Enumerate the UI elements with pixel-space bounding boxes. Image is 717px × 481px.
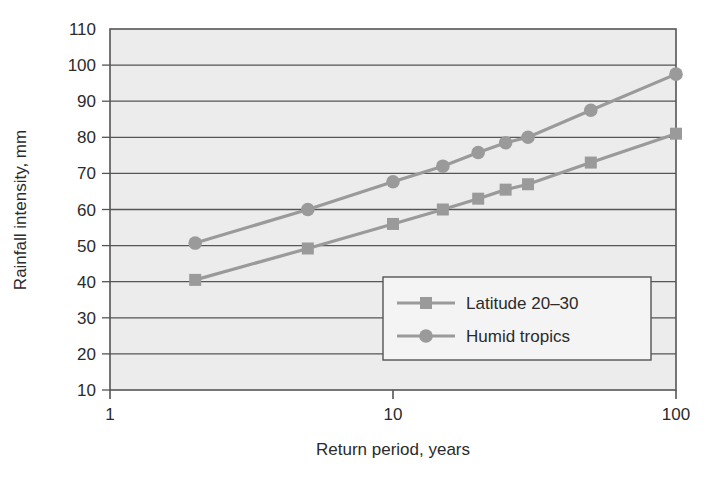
x-axis-tick-label: 10 xyxy=(384,405,403,424)
data-point-marker xyxy=(670,128,682,140)
data-point-marker xyxy=(437,204,449,216)
y-axis-tick-label: 60 xyxy=(77,201,96,220)
rainfall-intensity-line-chart: 102030405060708090100110 110100 Return p… xyxy=(0,0,717,481)
data-point-marker xyxy=(387,218,399,230)
x-axis-tick-label: 100 xyxy=(662,405,690,424)
x-axis-title: Return period, years xyxy=(316,440,470,459)
x-axis-tick-label: 1 xyxy=(105,405,114,424)
y-axis-tick-label: 30 xyxy=(77,309,96,328)
y-axis-ticks: 102030405060708090100110 xyxy=(68,20,110,400)
data-point-marker xyxy=(669,67,683,81)
chart-figure: 102030405060708090100110 110100 Return p… xyxy=(0,0,717,481)
y-axis-tick-label: 70 xyxy=(77,164,96,183)
data-point-marker xyxy=(500,184,512,196)
data-point-marker xyxy=(188,236,202,250)
y-axis-tick-label: 10 xyxy=(77,381,96,400)
data-point-marker xyxy=(386,175,400,189)
data-point-marker xyxy=(472,193,484,205)
y-axis-title: Rainfall intensity, mm xyxy=(11,130,30,290)
x-axis-ticks: 110100 xyxy=(105,390,690,424)
legend-label: Humid tropics xyxy=(466,327,570,346)
data-point-marker xyxy=(499,136,513,150)
y-axis-tick-label: 110 xyxy=(69,20,96,39)
y-axis-tick-label: 20 xyxy=(77,345,96,364)
data-point-marker xyxy=(301,203,315,217)
data-point-marker xyxy=(585,157,597,169)
legend-box xyxy=(383,277,651,360)
data-point-marker xyxy=(584,103,598,117)
data-point-marker xyxy=(522,178,534,190)
chart-legend: Latitude 20–30Humid tropics xyxy=(383,277,651,360)
legend-label: Latitude 20–30 xyxy=(466,294,579,313)
data-point-marker xyxy=(302,242,314,254)
y-axis-tick-label: 100 xyxy=(68,56,96,75)
data-point-marker xyxy=(189,274,201,286)
y-axis-tick-label: 50 xyxy=(77,237,96,256)
data-point-marker xyxy=(521,131,535,145)
data-point-marker xyxy=(471,146,485,160)
legend-marker-square xyxy=(420,297,432,309)
y-axis-tick-label: 80 xyxy=(77,128,96,147)
y-axis-tick-label: 90 xyxy=(77,92,96,111)
y-axis-tick-label: 40 xyxy=(77,273,96,292)
data-point-marker xyxy=(436,159,450,173)
legend-marker-circle xyxy=(419,329,433,343)
